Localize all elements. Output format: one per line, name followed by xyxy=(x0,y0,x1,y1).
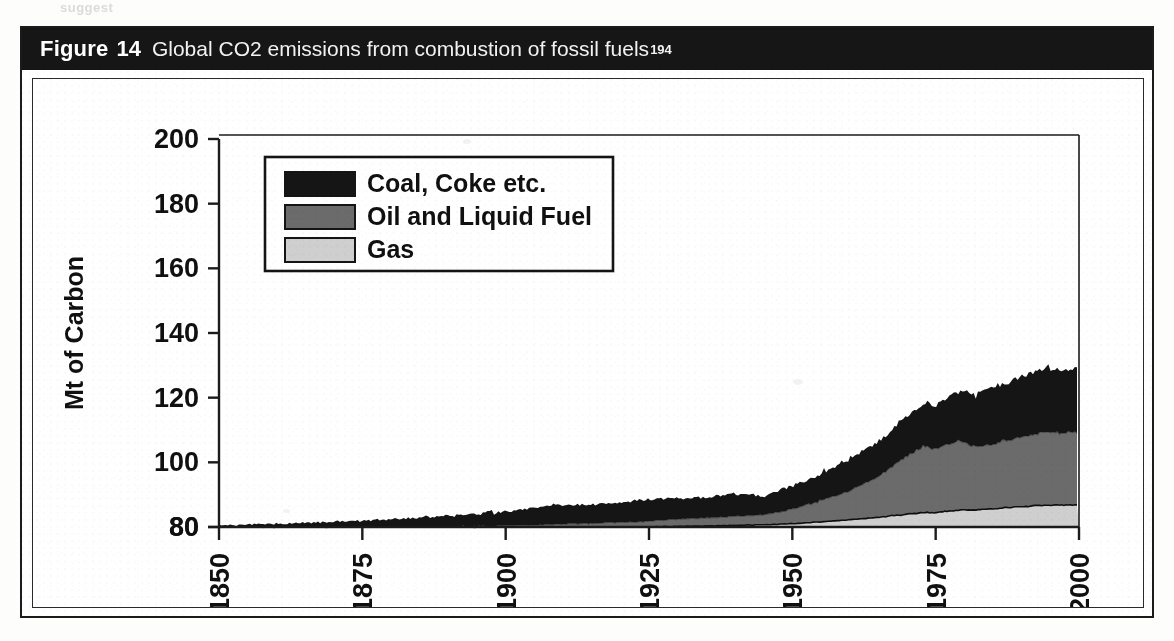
y-tick-label: 100 xyxy=(154,447,199,477)
y-tick-label: 160 xyxy=(154,253,199,283)
x-tick-label: 1975 xyxy=(922,553,952,607)
y-tick-label: 200 xyxy=(154,124,199,154)
figure-caption-bar: Figure 14 Global CO2 emissions from comb… xyxy=(22,28,1152,70)
caption-text: Global CO2 emissions from combustion of … xyxy=(152,37,649,61)
x-tick-label: 1950 xyxy=(778,553,808,607)
x-tick-label: 1925 xyxy=(635,553,665,607)
legend-label: Gas xyxy=(367,235,414,263)
caption-label: Figure xyxy=(40,36,108,62)
caption-superscript: 194 xyxy=(650,42,672,57)
legend-label: Coal, Coke etc. xyxy=(367,169,546,197)
x-tick-label: 2000 xyxy=(1065,553,1095,607)
y-tick-label: 80 xyxy=(169,512,199,542)
stacked-area-chart: 8080100120140160180200185018751900192519… xyxy=(33,79,1143,607)
y-tick-label: 120 xyxy=(154,383,199,413)
x-tick-label: 1875 xyxy=(348,553,378,607)
caption-number: 14 xyxy=(116,36,140,62)
y-axis-title: Mt of Carbon xyxy=(60,256,88,410)
y-tick-label: 180 xyxy=(154,189,199,219)
x-tick-label: 1850 xyxy=(205,553,235,607)
x-tick-label: 1900 xyxy=(492,553,522,607)
chart-panel: 8080100120140160180200185018751900192519… xyxy=(32,78,1144,608)
y-tick-label: 140 xyxy=(154,318,199,348)
legend-label: Oil and Liquid Fuel xyxy=(367,202,592,230)
chart-legend: Coal, Coke etc.Oil and Liquid FuelGas xyxy=(265,157,613,271)
figure-frame: Figure 14 Global CO2 emissions from comb… xyxy=(20,26,1154,618)
page-top-remnant: suggest xyxy=(0,0,1174,16)
